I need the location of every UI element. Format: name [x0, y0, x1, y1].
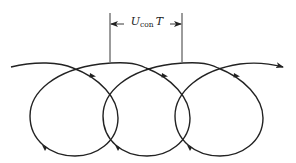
arrow-icon: [90, 73, 97, 78]
entry-arc: [11, 63, 73, 68]
arrow-icon: [234, 73, 241, 78]
dimension-label: Ucon T: [124, 15, 170, 32]
loop-3: [175, 63, 283, 156]
trajectory-path: [11, 63, 283, 156]
direction-arrows: [42, 73, 240, 151]
loop-1: [30, 63, 146, 156]
label-suffix: T: [156, 15, 163, 28]
label-subscript: con: [140, 20, 154, 29]
label-symbol: U: [131, 15, 140, 28]
arrow-icon: [162, 73, 169, 78]
